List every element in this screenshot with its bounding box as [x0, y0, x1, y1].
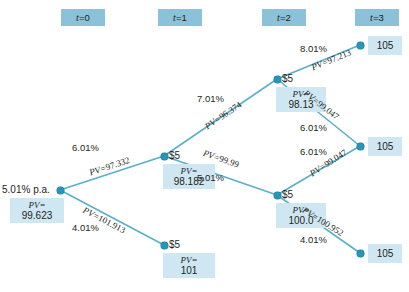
edge-pv-e0u: PV=97.332	[88, 155, 131, 177]
terminal-box-t3-c: 105	[368, 244, 402, 263]
node-label-t2-up: $5	[282, 73, 293, 84]
pv-value: 101	[167, 266, 211, 277]
pv-value: 99.047	[315, 99, 341, 122]
pv-value: 99.99	[218, 154, 240, 170]
edge-rate-e2ud: 6.01%	[300, 122, 327, 133]
edge-line-e0d	[60, 190, 164, 245]
pv-value: 97.213	[326, 47, 353, 66]
terminal-box-t3-a: 105	[368, 36, 402, 55]
period-header-t2: t=2	[262, 9, 306, 26]
edge-rate-e0d: 4.01%	[72, 222, 99, 233]
node-dot-t3-b[interactable]	[357, 143, 364, 150]
edge-rate-e2dd: 4.01%	[300, 234, 327, 245]
node-dot-t2-up[interactable]	[274, 76, 281, 83]
pv-box-t0: PV= 99.623	[10, 198, 64, 223]
pv-value: 99.623	[14, 211, 60, 222]
node-label-t2-down: $5	[282, 189, 293, 200]
node-dot-t0[interactable]	[57, 187, 64, 194]
node-dot-t3-c[interactable]	[357, 250, 364, 257]
node-label-t1-down: $5	[169, 239, 180, 250]
edge-rate-e1uu: 7.01%	[197, 93, 224, 104]
period-header-t1: t=1	[158, 9, 202, 26]
period-header-t0: t=0	[61, 9, 105, 26]
node-label-t0: 5.01% p.a.	[2, 184, 50, 195]
edge-rate-e0u: 6.01%	[72, 142, 99, 153]
edge-rate-e2du: 6.01%	[300, 146, 327, 157]
pv-value: 101.913	[97, 213, 128, 235]
edge-pv-e1uu: PV=96.374	[203, 100, 243, 132]
pv-box-t1-down: PV= 101	[163, 253, 215, 278]
node-dot-t2-down[interactable]	[274, 192, 281, 199]
node-dot-t3-a[interactable]	[357, 42, 364, 49]
period-header-t3: t=3	[355, 9, 399, 26]
node-label-t1-up: $5	[169, 150, 180, 161]
node-dot-t1-down[interactable]	[161, 242, 168, 249]
pv-label: PV=	[167, 255, 211, 266]
tree-edges	[0, 0, 409, 292]
edge-rate-e2uu: 8.01%	[300, 43, 327, 54]
terminal-box-t3-b: 105	[368, 137, 402, 156]
node-dot-t1-up[interactable]	[161, 153, 168, 160]
pv-value: 97.332	[104, 155, 131, 172]
edge-rate-e1ud: 5.01%	[197, 172, 224, 183]
pv-label: PV=	[14, 200, 60, 211]
tree-diagram-canvas: t=0 t=1 t=2 t=3 5.01% p.a. $5 $5 $5 $5 P…	[0, 0, 409, 292]
